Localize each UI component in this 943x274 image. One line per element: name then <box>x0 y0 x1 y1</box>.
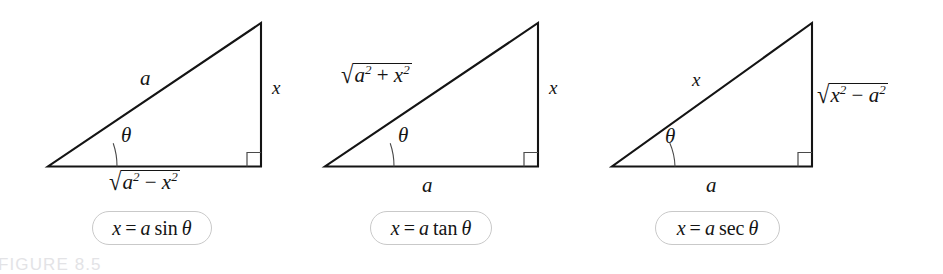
formula-box-sine: x = a sin θ <box>92 211 212 245</box>
label-base-secant: a <box>706 175 717 196</box>
formula-box-secant: x = a sec θ <box>655 211 780 245</box>
label-hypotenuse-secant: x <box>692 70 700 89</box>
formula-text-tangent: x = a tan θ <box>391 218 471 238</box>
label-angle-theta-tangent: θ <box>398 125 408 146</box>
label-vertical-sine: x <box>272 78 280 97</box>
right-angle-marker-sine <box>247 153 261 167</box>
formula-box-tangent: x = a tan θ <box>370 211 492 245</box>
label-vertical-tangent: x <box>549 78 557 97</box>
label-angle-theta-secant: θ <box>665 126 675 147</box>
formula-text-sine: x = a sin θ <box>112 218 191 238</box>
label-vertical-radical-secant: √ x2 − a2 <box>817 83 888 106</box>
right-angle-marker-tangent <box>524 153 538 167</box>
label-base-tangent: a <box>422 175 433 196</box>
right-angle-marker-secant <box>798 153 812 167</box>
triangle-secant <box>612 23 812 167</box>
triangle-tangent <box>325 23 538 167</box>
triangle-sine <box>48 23 261 167</box>
radical-sign-icon: √ <box>341 63 353 88</box>
radical-sign-icon: √ <box>109 170 121 195</box>
label-base-radical-sine: √ a2 − x2 <box>109 170 180 193</box>
triangle-outline-tangent <box>325 23 538 167</box>
triangle-outline-secant <box>612 23 812 167</box>
formula-text-secant: x = a sec θ <box>677 218 759 238</box>
radicand-secant: x2 − a2 <box>829 83 887 106</box>
radical-sign-icon: √ <box>817 83 829 108</box>
radicand-tangent: a2 + x2 <box>353 63 411 86</box>
figure-trig-substitution-triangles: a x θ √ a2 − x2 x = a sin θ √ a2 + x2 x … <box>0 0 943 274</box>
triangle-outline-sine <box>48 23 261 167</box>
label-hypotenuse-sine: a <box>140 68 151 89</box>
angle-arc-tangent <box>390 143 394 166</box>
label-hypotenuse-radical-tangent: √ a2 + x2 <box>341 63 412 86</box>
angle-arc-sine <box>113 143 117 166</box>
figure-caption: FIGURE 8.5 <box>0 256 102 273</box>
radicand-sine: a2 − x2 <box>121 170 179 193</box>
label-angle-theta-sine: θ <box>121 125 131 146</box>
